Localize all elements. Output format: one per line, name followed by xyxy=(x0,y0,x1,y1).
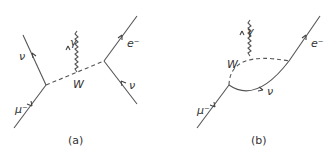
panel-a: ν γ W e⁻ ν μ⁻ (a) xyxy=(14,16,140,147)
label-neutrino: ν xyxy=(267,85,273,98)
photon-arrow-icon xyxy=(240,31,244,35)
muon-arrow-icon xyxy=(210,102,215,107)
panel-b: γ W ν e⁻ μ⁻ (b) xyxy=(196,16,324,147)
caption-b: (b) xyxy=(251,134,267,147)
label-electron: e⁻ xyxy=(311,37,324,50)
label-neutrino-in: ν xyxy=(129,79,135,92)
label-electron: e⁻ xyxy=(127,37,140,50)
caption-a: (a) xyxy=(68,134,83,147)
label-photon: γ xyxy=(247,25,254,38)
label-muon: μ⁻ xyxy=(14,103,28,116)
label-w-boson: W xyxy=(227,58,239,71)
label-muon: μ⁻ xyxy=(196,104,210,117)
neutrino-out-line xyxy=(23,35,46,85)
feynman-diagrams: ν γ W e⁻ ν μ⁻ (a) γ W ν e⁻ μ⁻ (b) xyxy=(0,0,335,152)
neutrino-out-arrow-icon xyxy=(32,53,36,58)
label-neutrino-out: ν xyxy=(19,50,25,63)
neutrino-in-arrow-icon xyxy=(121,81,126,86)
label-photon: γ xyxy=(70,36,77,49)
label-w-boson: W xyxy=(73,78,85,91)
